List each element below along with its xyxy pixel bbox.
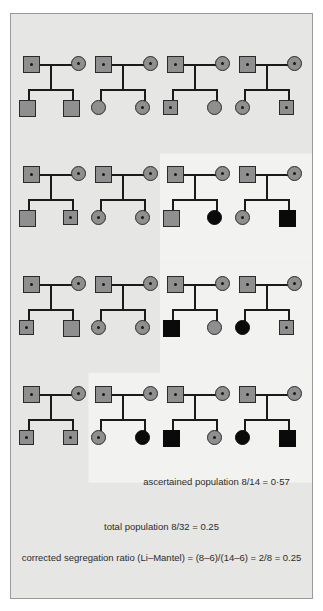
carrier-dot-icon [246,393,249,396]
sibship-stub [144,419,146,431]
descent-line [50,284,52,310]
pedigree-family-f8 [239,166,305,228]
father-square-carrier [167,56,184,73]
child-2-circle-carrier [135,210,150,225]
child-1-square-carrier [19,320,34,335]
sibship-line [244,199,290,201]
pedigree-family-f14 [95,386,161,448]
carrier-dot-icon [149,392,152,395]
sibship-stub [216,419,218,431]
child-1-circle-plain [91,100,106,115]
sibship-stub [244,309,246,321]
carrier-dot-icon [169,106,172,109]
pedigree-family-f15 [167,386,233,448]
descent-line [266,64,268,90]
pedigree-family-f5 [23,166,89,228]
mother-circle-carrier [71,166,86,181]
caption-corrected-segregation-ratio: corrected segregation ratio (Li–Mantel) … [11,552,312,563]
sibship-line [28,419,74,421]
child-2-circle-carrier [135,100,150,115]
carrier-dot-icon [30,393,33,396]
pedigree-family-f16 [239,386,305,448]
mother-circle-carrier [215,276,230,291]
carrier-dot-icon [97,216,100,219]
carrier-dot-icon [174,283,177,286]
mother-circle-carrier [287,56,302,71]
child-1-square-plain [19,100,36,117]
mating-line [255,284,289,286]
carrier-dot-icon [293,172,296,175]
carrier-dot-icon [221,392,224,395]
carrier-dot-icon [293,62,296,65]
caption-total-population: total population 8/32 = 0.25 [11,521,312,532]
sibship-stub [144,309,146,321]
descent-line [122,64,124,90]
carrier-dot-icon [102,283,105,286]
mother-circle-carrier [287,166,302,181]
mating-line [111,64,145,66]
sibship-stub [144,199,146,211]
carrier-dot-icon [102,63,105,66]
mother-circle-carrier [71,386,86,401]
mother-circle-carrier [215,386,230,401]
carrier-dot-icon [174,173,177,176]
descent-line [266,284,268,310]
child-1-circle-affected [235,320,250,335]
child-2-circle-affected [207,210,222,225]
descent-line [194,284,196,310]
pedigree-figure-panel: ascertained population 8/14 = 0·57 total… [10,13,313,599]
mating-line [255,394,289,396]
carrier-dot-icon [174,393,177,396]
carrier-dot-icon [149,172,152,175]
child-1-square-plain [19,210,36,227]
child-1-circle-carrier [235,210,250,225]
mother-circle-carrier [215,56,230,71]
father-square-carrier [95,56,112,73]
pedigree-family-f11 [167,276,233,338]
mating-line [111,394,145,396]
carrier-dot-icon [102,393,105,396]
carrier-dot-icon [241,106,244,109]
mating-line [183,394,217,396]
carrier-dot-icon [149,282,152,285]
carrier-dot-icon [141,326,144,329]
carrier-dot-icon [246,173,249,176]
descent-line [194,174,196,200]
carrier-dot-icon [69,436,72,439]
child-1-square-affected [163,320,180,337]
descent-line [266,174,268,200]
carrier-dot-icon [149,62,152,65]
carrier-dot-icon [77,62,80,65]
pedigree-family-f13 [23,386,89,448]
sibship-stub [100,419,102,431]
descent-line [50,394,52,420]
mating-line [255,174,289,176]
sibship-line [100,199,146,201]
mother-circle-carrier [143,56,158,71]
sibship-line [28,89,74,91]
descent-line [50,64,52,90]
mother-circle-carrier [71,276,86,291]
father-square-carrier [167,386,184,403]
child-2-square-plain [63,320,80,337]
sibship-line [28,309,74,311]
father-square-carrier [95,166,112,183]
pedigree-family-f9 [23,276,89,338]
descent-line [122,174,124,200]
father-square-carrier [239,386,256,403]
child-2-circle-carrier [207,430,222,445]
father-square-carrier [23,386,40,403]
father-square-carrier [239,56,256,73]
carrier-dot-icon [102,173,105,176]
carrier-dot-icon [30,173,33,176]
sibship-line [172,309,218,311]
mating-line [39,174,73,176]
mother-circle-carrier [215,166,230,181]
child-2-circle-carrier [135,320,150,335]
child-1-circle-carrier [91,210,106,225]
father-square-carrier [95,386,112,403]
pedigree-family-f7 [167,166,233,228]
father-square-carrier [23,56,40,73]
carrier-dot-icon [246,283,249,286]
carrier-dot-icon [30,63,33,66]
